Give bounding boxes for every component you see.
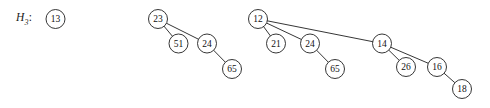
node-key-label: 26 — [401, 62, 411, 72]
tree-node: 23 — [149, 10, 168, 29]
tree-node: 13 — [46, 10, 65, 29]
tree-edge — [388, 50, 399, 61]
tree-node: 65 — [326, 60, 345, 79]
node-key-label: 14 — [377, 39, 387, 49]
node-key-label: 12 — [253, 14, 263, 24]
tree-edge — [263, 26, 270, 36]
tree-node: 51 — [169, 34, 188, 53]
tree-node: 21 — [267, 34, 286, 53]
tree-node: 24 — [301, 34, 320, 53]
tree-node: 18 — [453, 80, 472, 99]
heap-graph: 13235124651221246514261618 — [0, 0, 490, 108]
node-key-label: 13 — [51, 14, 61, 24]
tree-node: 65 — [223, 60, 242, 79]
tree-node: 24 — [198, 34, 217, 53]
tree-edge — [213, 50, 226, 63]
tree-node: 14 — [373, 34, 392, 53]
node-key-label: 23 — [153, 14, 163, 24]
node-key-label: 24 — [202, 39, 212, 49]
node-key-label: 18 — [457, 84, 467, 94]
node-key-label: 24 — [305, 39, 315, 49]
tree-edge — [164, 26, 173, 37]
node-key-label: 21 — [271, 39, 281, 49]
tree-node: 16 — [428, 58, 447, 77]
node-key-label: 65 — [227, 64, 237, 74]
node-key-label: 51 — [174, 39, 184, 49]
tree-edge — [444, 73, 456, 83]
tree-edge — [316, 50, 329, 63]
binomial-heap-figure: H3: 13235124651221246514261618 — [0, 0, 490, 108]
tree-node: 26 — [397, 58, 416, 77]
node-key-label: 16 — [432, 62, 442, 72]
tree-node: 12 — [249, 10, 268, 29]
node-key-label: 65 — [330, 64, 340, 74]
